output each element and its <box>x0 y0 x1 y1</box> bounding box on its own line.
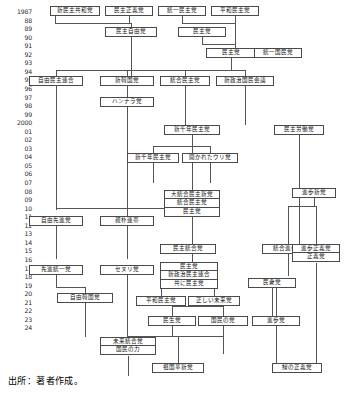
connector-line-vertical <box>223 326 224 354</box>
party-node: 正義党 <box>293 253 339 261</box>
party-node: 先進統一党 <box>29 265 83 275</box>
year-label: 89 <box>0 25 32 32</box>
year-label: 12 <box>0 222 32 229</box>
year-label: 24 <box>0 324 32 331</box>
party-node: 進歩新党 <box>292 188 336 198</box>
connector-line-vertical <box>172 306 173 316</box>
year-label: 04 <box>0 153 32 160</box>
party-node: 国民の党 <box>198 316 248 326</box>
party-node: 平和民主党 <box>136 296 186 306</box>
year-label: 13 <box>0 230 32 237</box>
party-node: 民主統合党 <box>160 244 216 254</box>
connector-line-vertical <box>316 263 317 363</box>
party-node: 祖国革新党 <box>152 363 204 373</box>
year-label: 94 <box>0 68 32 75</box>
year-axis: 1987888990919293949596979899200001020304… <box>0 0 34 340</box>
year-label: 14 <box>0 239 32 246</box>
party-genealogy-figure: 1987888990919293949596979899200001020304… <box>0 0 364 395</box>
year-label: 91 <box>0 42 32 49</box>
party-node: ハンナラ党 <box>100 97 154 107</box>
connector-line-horizontal <box>172 306 223 307</box>
year-label: 23 <box>0 316 32 323</box>
connector-line-horizontal <box>288 206 316 207</box>
year-label: 93 <box>0 59 32 66</box>
connector-line-vertical <box>161 288 162 296</box>
party-node: 新民主共和党 <box>50 6 100 16</box>
year-label: 95 <box>0 76 32 83</box>
party-node: 新千年民主党 <box>164 125 220 135</box>
connector-line-vertical <box>182 16 183 23</box>
source-caption: 出所：著者作成。 <box>8 374 83 387</box>
connector-line-vertical <box>314 198 315 206</box>
party-node: 統合民主党 <box>165 199 219 207</box>
connector-line-vertical <box>235 16 236 48</box>
year-label: 03 <box>0 145 32 152</box>
party-node: 新政治国民会議 <box>216 76 274 86</box>
party-node: 自由韓国党 <box>57 293 113 303</box>
year-label: 88 <box>0 17 32 24</box>
connector-line-vertical <box>245 86 246 125</box>
connector-line-vertical <box>192 217 193 262</box>
party-node: 民主労働党 <box>274 125 324 135</box>
year-label: 07 <box>0 179 32 186</box>
connector-line-vertical <box>172 326 173 336</box>
party-node: 国民の力 <box>101 346 155 354</box>
party-node-stack: 民主党新政治民主連合共に民主党 <box>160 262 218 289</box>
year-label: 20 <box>0 290 32 297</box>
party-node: 新韓国党 <box>100 76 154 86</box>
party-node: セヌリ党 <box>100 265 154 275</box>
year-label: 02 <box>0 136 32 143</box>
year-label: 09 <box>0 196 32 203</box>
connector-line-vertical <box>55 16 56 23</box>
connector-line-vertical <box>127 86 128 97</box>
year-label: 16 <box>0 256 32 263</box>
party-node: 民主自由党 <box>105 27 157 37</box>
party-node: 新千年民主党 <box>127 153 179 163</box>
connector-line-vertical <box>56 226 57 259</box>
connector-line-vertical <box>223 306 224 316</box>
connector-line-vertical <box>214 288 215 296</box>
connector-line-vertical <box>185 86 186 125</box>
year-label: 99 <box>0 111 32 118</box>
party-node: 新政治民主連合 <box>161 271 217 279</box>
connector-line-vertical <box>231 58 232 70</box>
year-label: 92 <box>0 51 32 58</box>
connector-line-vertical <box>85 303 86 337</box>
party-node: 共に民主党 <box>161 280 217 288</box>
party-node-stack: 大統合民主新党統合民主党民主党 <box>164 190 220 217</box>
connector-line-vertical <box>153 146 154 153</box>
connector-line-vertical <box>56 86 57 210</box>
connector-line-vertical <box>127 275 128 337</box>
connector-line-vertical <box>210 146 211 153</box>
connector-line-vertical <box>276 326 277 363</box>
party-node: 民主党 <box>165 208 219 216</box>
year-label: 1987 <box>0 8 32 15</box>
year-label: 2000 <box>0 119 32 126</box>
party-node: 自由先進党 <box>29 216 83 226</box>
year-label: 10 <box>0 205 32 212</box>
year-label: 17 <box>0 265 32 272</box>
connector-line-vertical <box>128 356 129 376</box>
party-node: 民主党 <box>206 48 256 58</box>
party-node: 統合民主党 <box>160 76 210 86</box>
year-label: 06 <box>0 170 32 177</box>
year-label: 97 <box>0 94 32 101</box>
year-label: 96 <box>0 85 32 92</box>
party-node: 進歩正義党 <box>293 245 339 253</box>
party-node: 統一国民党 <box>254 48 302 58</box>
party-node: 民主正義党 <box>105 6 153 16</box>
connector-line-vertical <box>210 163 211 183</box>
year-label: 19 <box>0 282 32 289</box>
connector-line-vertical <box>178 336 179 363</box>
year-label: 01 <box>0 128 32 135</box>
connector-line-vertical <box>316 206 317 244</box>
connector-line-horizontal <box>202 44 235 45</box>
party-node: 民生党 <box>148 316 196 326</box>
party-node: 親朴連帯 <box>100 216 154 226</box>
year-label: 05 <box>0 162 32 169</box>
year-label: 98 <box>0 102 32 109</box>
year-label: 22 <box>0 307 32 314</box>
connector-line-vertical <box>202 37 203 44</box>
connector-line-horizontal <box>182 23 235 24</box>
party-node: 開かれたウリ党 <box>182 153 238 163</box>
